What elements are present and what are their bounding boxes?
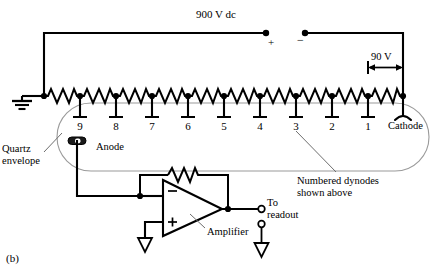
supply-minus-label: − <box>297 34 304 47</box>
output-terminal-ground <box>258 221 265 228</box>
quartz-envelope-outline <box>57 103 429 171</box>
dynode-3-electrode <box>289 96 303 117</box>
dynode-note-leader <box>296 131 336 172</box>
dynode-label-8: 8 <box>108 120 124 132</box>
step-voltage-label: 90 V <box>371 51 392 63</box>
dynode-label-9: 9 <box>72 120 88 132</box>
dynode-label-2: 2 <box>324 120 340 132</box>
dynode-electrodes <box>73 96 375 117</box>
divider-resistor-3 <box>116 89 152 103</box>
divider-resistor-8 <box>296 89 332 103</box>
output-label-line1: To <box>267 197 299 209</box>
dynode-6-electrode <box>181 96 195 117</box>
dynode-5-electrode <box>217 96 231 117</box>
cathode-label: Cathode <box>388 120 423 132</box>
dynode-label-1: 1 <box>360 120 376 132</box>
figure-photomultiplier-circuit: 900 V dc + − 90 V 9 8 7 6 5 4 3 2 1 Cath… <box>0 0 436 272</box>
junction-ground <box>41 93 47 99</box>
noninverting-ground-wire <box>145 222 163 238</box>
dynode-1-electrode <box>361 96 375 117</box>
feedback-resistor <box>168 168 203 182</box>
dynode-label-3: 3 <box>288 120 304 132</box>
amplifier-ground-symbol <box>138 238 152 252</box>
divider-resistor-1 <box>44 89 80 103</box>
supply-plus-label: + <box>268 36 274 48</box>
divider-resistor-9 <box>332 89 368 103</box>
divider-resistor-2 <box>80 89 116 103</box>
dynode-label-6: 6 <box>180 120 196 132</box>
divider-resistor-5 <box>188 89 224 103</box>
dimension-arrowhead-left <box>368 64 375 70</box>
divider-resistor-10 <box>368 89 403 103</box>
dynode-note-line1: Numbered dynodes <box>297 175 379 187</box>
output-ground-symbol <box>255 243 269 257</box>
output-label: To readout <box>267 197 299 221</box>
quartz-envelope-label-line1: Quartz <box>2 143 40 155</box>
divider-resistor-4 <box>152 89 188 103</box>
divider-resistor-7 <box>260 89 296 103</box>
amplifier-label: Amplifier <box>207 226 248 238</box>
dynode-label-7: 7 <box>144 120 160 132</box>
figure-caption: (b) <box>6 252 19 264</box>
output-terminal-signal <box>258 206 265 213</box>
dynode-7-electrode <box>145 96 159 117</box>
dynode-note-line2: shown above <box>297 187 379 199</box>
supply-voltage-label: 900 V dc <box>196 8 236 20</box>
junction-output <box>225 206 231 212</box>
quartz-envelope-label: Quartz envelope <box>2 143 40 167</box>
dynode-4-electrode <box>253 96 267 117</box>
dynode-2-electrode <box>325 96 339 117</box>
anode-label: Anode <box>96 141 124 153</box>
dynode-label-5: 5 <box>216 120 232 132</box>
supply-positive-wire <box>44 33 266 96</box>
output-label-line2: readout <box>267 209 299 221</box>
quartz-envelope-label-line2: envelope <box>2 155 40 167</box>
dynode-note-label: Numbered dynodes shown above <box>297 175 379 199</box>
supply-negative-wire <box>305 33 403 96</box>
dynode-8-electrode <box>109 96 123 117</box>
dynode-label-4: 4 <box>252 120 268 132</box>
divider-resistor-6 <box>224 89 260 103</box>
